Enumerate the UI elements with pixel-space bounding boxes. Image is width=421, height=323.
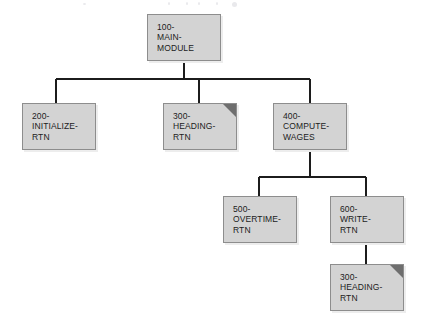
module-box-300-heading-rtn-bottom[interactable]: 300- HEADING- RTN	[330, 264, 404, 311]
duplicate-module-marker-icon	[223, 104, 236, 117]
module-label-300b: 300- HEADING- RTN	[340, 272, 382, 304]
module-label-400: 400- COMPUTE- WAGES	[283, 111, 329, 143]
module-box-300-heading-rtn-top[interactable]: 300- HEADING- RTN	[163, 103, 237, 150]
structure-chart-diagram: 100- MAIN- MODULE 200- INITIALIZE- RTN 3…	[0, 0, 421, 323]
module-box-600-write-rtn[interactable]: 600- WRITE- RTN	[330, 196, 404, 243]
module-box-400-compute-wages[interactable]: 400- COMPUTE- WAGES	[273, 103, 347, 150]
module-label-100: 100- MAIN- MODULE	[157, 22, 194, 54]
module-box-100-main-module[interactable]: 100- MAIN- MODULE	[147, 14, 221, 61]
module-box-500-overtime-rtn[interactable]: 500- OVERTIME- RTN	[223, 196, 297, 243]
module-label-300a: 300- HEADING- RTN	[173, 111, 215, 143]
module-label-200: 200- INITIALIZE- RTN	[32, 111, 78, 143]
duplicate-module-marker-icon	[390, 265, 403, 278]
module-label-500: 500- OVERTIME- RTN	[233, 204, 281, 236]
module-label-600: 600- WRITE- RTN	[340, 204, 371, 236]
module-box-200-initialize-rtn[interactable]: 200- INITIALIZE- RTN	[22, 103, 96, 150]
